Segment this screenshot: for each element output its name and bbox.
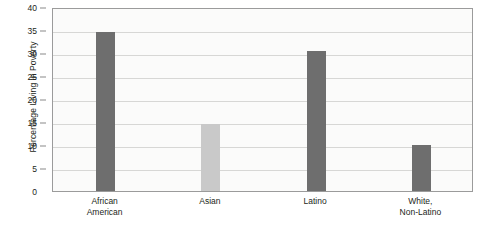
y-tick-mark <box>40 31 46 32</box>
x-axis-label-line: Asian <box>150 196 270 207</box>
y-axis-ticks: 0510152025303540 <box>0 0 46 225</box>
x-axis-label-line: American <box>45 207 165 218</box>
y-tick-label: 35 <box>28 27 37 36</box>
y-tick-mark <box>40 123 46 124</box>
y-tick-label: 0 <box>32 188 37 197</box>
bar <box>201 124 220 191</box>
y-tick-label: 5 <box>32 165 37 174</box>
y-tick-label: 40 <box>28 4 37 13</box>
bar <box>307 51 326 191</box>
bar-series <box>53 9 472 191</box>
bar-chart: Percentage Living in Poverty 05101520253… <box>0 0 480 225</box>
plot-area <box>52 8 473 192</box>
y-tick-mark <box>40 8 46 9</box>
x-axis-label-line: White, <box>360 196 480 207</box>
y-tick-label: 30 <box>28 50 37 59</box>
x-axis-label-line: Non-Latino <box>360 207 480 218</box>
y-tick-mark <box>40 146 46 147</box>
x-axis-label-line: African <box>45 196 165 207</box>
bar <box>412 145 431 191</box>
y-tick-mark <box>40 77 46 78</box>
x-axis-label: White,Non-Latino <box>360 196 480 218</box>
x-axis-label-line: Latino <box>255 196 375 207</box>
x-axis-labels: AfricanAmericanAsianLatinoWhite,Non-Lati… <box>52 196 473 224</box>
y-tick-label: 25 <box>28 73 37 82</box>
x-axis-label: AfricanAmerican <box>45 196 165 218</box>
y-tick-label: 10 <box>28 142 37 151</box>
x-axis-label: Latino <box>255 196 375 207</box>
y-tick-label: 15 <box>28 119 37 128</box>
y-tick-label: 20 <box>28 96 37 105</box>
x-axis-label: Asian <box>150 196 270 207</box>
y-tick-mark <box>40 100 46 101</box>
y-tick-mark <box>40 54 46 55</box>
y-tick-mark <box>40 169 46 170</box>
bar <box>96 32 115 191</box>
